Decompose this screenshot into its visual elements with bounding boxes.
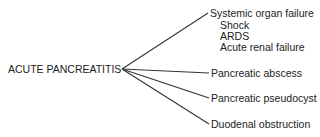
branch-systemic-organ-failure: Systemic organ failure: [210, 8, 314, 19]
sub-item-acute-renal-failure: Acute renal failure: [220, 42, 305, 53]
connector-pancreatic-abscess: [122, 69, 209, 73]
branch-pancreatic-pseudocyst: Pancreatic pseudocyst: [211, 93, 317, 104]
root-node-label: ACUTE PANCREATITIS: [8, 64, 121, 75]
connector-duodenal-obstruction: [122, 69, 209, 124]
branch-pancreatic-abscess: Pancreatic abscess: [211, 68, 302, 79]
connector-pancreatic-pseudocyst: [122, 69, 209, 98]
branch-duodenal-obstruction: Duodenal obstruction: [211, 119, 310, 130]
connector-systemic-organ-failure: [122, 13, 208, 69]
